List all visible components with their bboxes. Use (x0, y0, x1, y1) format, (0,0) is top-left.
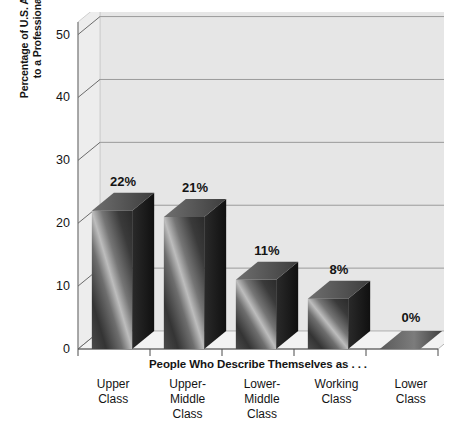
bar-side-face (132, 193, 154, 349)
bar-data-label: 21% (182, 180, 208, 195)
x-axis-category-label: LowerClass (374, 377, 448, 429)
bar-chart: Percentage of U.S. Adults Who Belong to … (0, 0, 452, 430)
bar-front-face (92, 211, 132, 349)
bar-side-face (204, 199, 226, 349)
x-axis-category-labels: UpperClassUpper-MiddleClassLower-MiddleC… (76, 377, 448, 429)
x-axis-category-label-line: Class (150, 407, 224, 422)
y-axis-tick-label: 50 (44, 29, 70, 41)
x-axis-category-label-line: Middle (225, 392, 299, 407)
x-axis-category-label-line: Lower (374, 377, 448, 392)
bar-data-label: 8% (330, 262, 349, 277)
x-axis-category-label-line: Lower- (225, 377, 299, 392)
x-axis-category-label-line: Working (299, 377, 373, 392)
y-axis-tick-label: 20 (44, 217, 70, 229)
y-axis-title-line-1: Percentage of U.S. Adults Who Belong (18, 0, 31, 98)
x-axis-category-label: Lower-MiddleClass (225, 377, 299, 429)
x-axis-category-label-line: Class (225, 407, 299, 422)
bar-front-face (236, 280, 276, 349)
bar-front-face (164, 217, 204, 349)
y-axis-tick-label: 30 (44, 154, 70, 166)
x-axis-category-label-line: Class (299, 392, 373, 407)
y-axis-tick-label: 40 (44, 91, 70, 103)
y-axis-tick-label: 10 (44, 280, 70, 292)
y-axis-tick-label: 0 (44, 343, 70, 355)
x-axis-category-label: WorkingClass (299, 377, 373, 429)
y-axis-tick-labels: 01020304050 (42, 0, 70, 430)
bar-front-face (308, 299, 348, 349)
bar-data-label: 11% (254, 243, 280, 258)
x-axis-category-label-line: Upper (76, 377, 150, 392)
x-axis-category-label: Upper-MiddleClass (150, 377, 224, 429)
x-axis-category-label-line: Upper- (150, 377, 224, 392)
x-axis-category-label-line: Middle (150, 392, 224, 407)
plot-area: 22%21%11%8%0% (72, 12, 444, 357)
x-axis-category-label-line: Class (374, 392, 448, 407)
x-axis-category-label-line: Class (76, 392, 150, 407)
bar-data-label: 0% (402, 310, 421, 325)
x-axis-category-label: UpperClass (76, 377, 150, 429)
bar-data-label: 22% (110, 174, 136, 189)
x-axis-title: People Who Describe Themselves as . . . (72, 358, 444, 370)
